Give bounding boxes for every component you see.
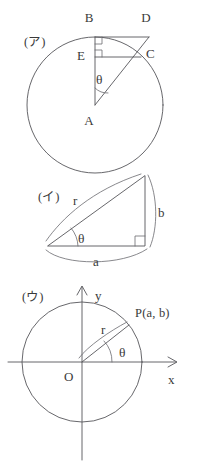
panel-c-label-theta: θ	[119, 345, 125, 360]
panel-a-label-A: A	[84, 113, 94, 128]
panel-a-right-angle-at-e	[95, 50, 102, 57]
panel-c-label-r: r	[101, 322, 106, 337]
panel-c-label-O: O	[64, 369, 73, 384]
panel-b-brace-r	[46, 174, 141, 241]
panel-a-label-E: E	[77, 48, 85, 63]
panel-a-label-theta: θ	[96, 72, 102, 87]
panel-b-label-b: b	[158, 205, 165, 220]
figure-root: (ア) B D C E θ A (イ) r b a θ	[0, 0, 200, 470]
panel-c-label-y: y	[95, 288, 102, 303]
panel-a-label-B: B	[85, 10, 94, 25]
panel-a-label-C: C	[146, 46, 155, 61]
panel-a-tag: (ア)	[24, 35, 45, 49]
panel-a-segment-AD	[95, 37, 149, 105]
panel-a-right-angle-at-b	[95, 37, 102, 44]
panel-b-triangle	[48, 176, 145, 246]
panel-b-label-r: r	[73, 193, 78, 208]
panel-c-group: (ウ) y x O r θ P(a, b)	[8, 286, 177, 460]
panel-b-label-theta: θ	[78, 231, 84, 246]
panel-a-group: (ア) B D C E θ A	[24, 10, 163, 173]
panel-b-brace-b	[148, 175, 156, 247]
panel-b-label-a: a	[93, 254, 99, 269]
panel-b-right-angle	[135, 236, 145, 246]
panel-b-tag: (イ)	[38, 190, 59, 204]
panel-c-label-x: x	[168, 372, 175, 387]
panel-b-group: (イ) r b a θ	[38, 174, 165, 269]
panel-a-label-D: D	[141, 10, 150, 25]
panel-b-theta-arc	[71, 228, 78, 246]
trigonometry-figure-svg: (ア) B D C E θ A (イ) r b a θ	[0, 0, 200, 470]
panel-c-tag: (ウ)	[22, 290, 43, 304]
panel-c-label-P: P(a, b)	[135, 306, 170, 320]
